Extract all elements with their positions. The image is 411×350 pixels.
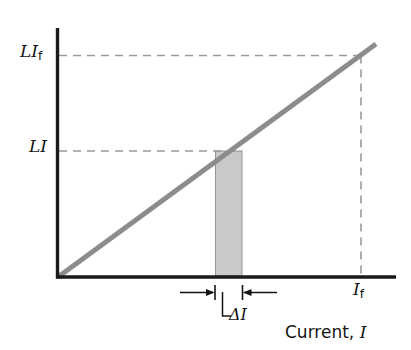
delta-i-arrow-left-head [206,289,215,296]
y-axis-label-li-f: LIf [20,43,42,63]
x-axis-title-symbol: I [360,322,367,342]
shaded-strip-delta-i [216,151,243,276]
x-axis-label-i-f-base: I [353,279,360,299]
delta-i-arrow-right-head [243,289,252,296]
x-axis-label-i-f: If [353,281,364,301]
figure-container: LIf LI If ΔI Current, I [0,0,411,350]
y-axis-label-li-f-subscript: f [38,49,42,63]
flux-linkage-vs-current-chart [0,0,411,350]
delta-i-label: ΔI [229,307,247,323]
x-axis-title-text: Current, [285,322,360,342]
y-axis-label-li-base: LI [29,136,47,156]
x-axis-label-i-f-subscript: f [360,287,364,301]
y-axis-label-li: LI [29,138,47,155]
y-axis-label-li-f-base: LI [20,41,38,61]
x-axis-title: Current, I [285,324,366,341]
